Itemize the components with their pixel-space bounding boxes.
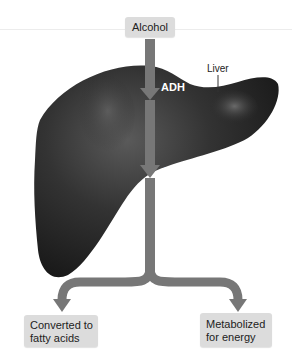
outcome-line: fatty acids: [30, 332, 98, 345]
outcome-line: Converted to: [30, 319, 98, 332]
liver-label: Liver: [207, 63, 229, 74]
outcome-energy: Metabolized for energy: [200, 313, 272, 347]
alcohol-box: Alcohol: [125, 17, 175, 37]
liver-diagram: [0, 0, 292, 361]
outcome-line: Metabolized: [206, 318, 272, 331]
adh-label: ADH: [161, 81, 185, 93]
outcome-fatty-acids: Converted to fatty acids: [24, 315, 98, 347]
aldh-label: ALDH: [162, 165, 193, 177]
alcohol-label: Alcohol: [132, 21, 168, 33]
outcome-line: for energy: [206, 331, 272, 344]
